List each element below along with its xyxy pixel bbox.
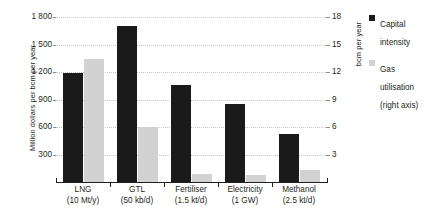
legend-swatch-gas-utilisation-icon — [369, 60, 375, 66]
y-tickmark-right-3 — [326, 155, 330, 156]
y-tick-right-9: 9 — [332, 95, 362, 104]
y-tick-right-12: 12 — [332, 67, 362, 76]
category-label-unit: (1 GW) — [218, 196, 272, 207]
bar-capital-intensity — [63, 73, 83, 182]
category-separator — [164, 182, 165, 187]
bar-gas-utilisation — [84, 59, 104, 182]
y-tickmark-right-6 — [326, 127, 330, 128]
category-separator — [272, 182, 273, 187]
y-tickmark-right-12 — [326, 72, 330, 73]
bar-group — [110, 17, 164, 182]
category-label-name: LNG — [75, 185, 92, 194]
y-tickmark-right-9 — [326, 100, 330, 101]
category-separator — [218, 182, 219, 187]
bar-gas-utilisation — [246, 175, 266, 182]
y-tick-left-1500: 1 500 — [12, 40, 52, 49]
bar-capital-intensity — [279, 134, 299, 182]
bar-group — [164, 17, 218, 182]
bar-group — [218, 17, 272, 182]
category-separator — [110, 182, 111, 187]
y-tick-left-1800: 1 800 — [12, 12, 52, 21]
y-tick-right-18: 18 — [332, 12, 362, 21]
y-tick-left-900: 900 — [12, 95, 52, 104]
x-axis-line — [56, 182, 328, 183]
x-axis-left-cap — [56, 178, 57, 183]
legend-item-capital-intensity: Capital intensity — [369, 13, 438, 49]
y-tick-left-600: 600 — [12, 122, 52, 131]
y-axis-right-ticks: 369121518 — [332, 0, 362, 214]
plot-area — [56, 17, 326, 182]
legend-label: Capital intensity — [380, 20, 410, 47]
y-axis-left-ticks: 3006009001 2001 5001 800 — [10, 0, 52, 214]
category-label-name: Methanol — [282, 185, 316, 194]
chart-legend: Capital intensityGas utilisation (right … — [369, 13, 438, 121]
legend-label: Gas utilisation (right axis) — [380, 65, 418, 110]
bar-group — [56, 17, 110, 182]
category-label-name: GTL — [129, 185, 145, 194]
x-axis-right-cap — [327, 178, 328, 183]
y-tick-right-6: 6 — [332, 122, 362, 131]
bar-gas-utilisation — [192, 174, 212, 182]
legend-swatch-capital-intensity-icon — [369, 15, 375, 21]
y-tickmark-right-15 — [326, 45, 330, 46]
category-label: Methanol(2.5 kt/d) — [272, 185, 326, 206]
category-label-unit: (1.5 kt/d) — [164, 196, 218, 207]
y-tick-left-300: 300 — [12, 150, 52, 159]
category-label-name: Electricity — [227, 185, 262, 194]
bar-gas-utilisation — [300, 170, 320, 182]
category-label: LNG(10 Mt/y) — [56, 185, 110, 206]
bar-capital-intensity — [171, 85, 191, 182]
category-label-unit: (10 Mt/y) — [56, 196, 110, 207]
category-label: Electricity(1 GW) — [218, 185, 272, 206]
y-tick-right-15: 15 — [332, 40, 362, 49]
bar-capital-intensity — [117, 26, 137, 182]
category-label-unit: (50 kb/d) — [110, 196, 164, 207]
bar-chart-figure: Million dollars per bcm per year bcm per… — [0, 0, 438, 214]
category-label-name: Fertiliser — [175, 185, 206, 194]
y-tickmark-right-18 — [326, 17, 330, 18]
legend-item-gas-utilisation: Gas utilisation (right axis) — [369, 58, 438, 112]
y-tick-left-1200: 1 200 — [12, 67, 52, 76]
bar-capital-intensity — [225, 104, 245, 182]
category-label: GTL(50 kb/d) — [110, 185, 164, 206]
y-tick-right-3: 3 — [332, 150, 362, 159]
bar-group — [272, 17, 326, 182]
category-label: Fertiliser(1.5 kt/d) — [164, 185, 218, 206]
bar-gas-utilisation — [138, 127, 158, 182]
category-label-unit: (2.5 kt/d) — [272, 196, 326, 207]
